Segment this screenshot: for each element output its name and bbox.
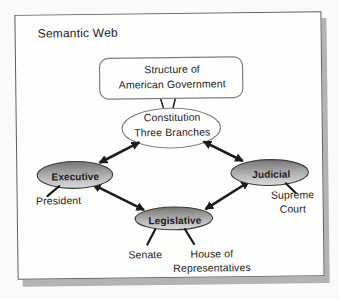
root-box-label: Structure of American Government xyxy=(100,61,244,92)
hub-label-line2: Three Branches xyxy=(123,124,222,140)
house-of-representatives-label: House of Representatives xyxy=(171,247,252,275)
arrow-executive-legislative xyxy=(93,184,144,210)
senate-connector-line xyxy=(147,230,155,245)
hub-label-line1: Constitution xyxy=(123,109,222,125)
house-label-line1: House of xyxy=(171,247,252,261)
concept-map-graphic xyxy=(15,12,323,279)
senate-label: Senate xyxy=(117,248,173,262)
house-label-line2: Representatives xyxy=(171,260,252,274)
arrow-judicial-constitution xyxy=(204,141,243,161)
arrow-judicial-legislative xyxy=(205,182,249,209)
arrow-executive-constitution xyxy=(99,142,139,162)
house-connector-line xyxy=(185,229,194,244)
executive-label: Executive xyxy=(37,170,113,184)
supreme-court-label: Supreme Court xyxy=(264,188,322,216)
scanned-figure-page: Semantic Web Structure of American Gover… xyxy=(0,0,339,299)
root-box-label-line2: American Government xyxy=(100,76,244,92)
root-hub-connector-left xyxy=(160,98,163,108)
legislative-label: Legislative xyxy=(136,213,214,227)
judicial-label: Judicial xyxy=(232,167,310,181)
figure-panel: Semantic Web Structure of American Gover… xyxy=(14,11,324,280)
panel-title: Semantic Web xyxy=(38,26,118,41)
supreme-court-label-line2: Court xyxy=(264,202,322,216)
root-hub-connector-right xyxy=(173,98,176,108)
president-label: President xyxy=(30,194,88,208)
supreme-court-label-line1: Supreme xyxy=(264,188,322,202)
hub-label: Constitution Three Branches xyxy=(123,109,222,139)
